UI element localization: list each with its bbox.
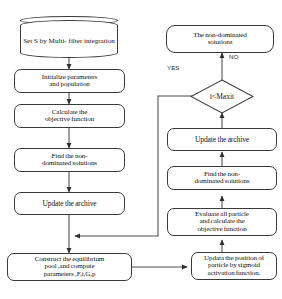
update-archive-left-line1: Update the archive [17,200,122,208]
edge-label-no: NO [229,53,238,60]
equilibrium-pool-line3: parameters ,F,t,G,p [10,271,129,278]
update-position-line3: activation function. [194,270,274,277]
update-archive-left-node: Update the archive [14,192,125,215]
update-position-node: Updata the position of particle by sigmo… [191,252,277,280]
data-source-line1: Set S by Multi- [23,37,67,45]
find-nondominated-left-node: Find the non- dominated soiutions [14,148,125,172]
find-nondominated-left-line2: dominated soiutions [17,160,122,167]
flowchart-canvas: Set S by Multi- filter integration Initi… [0,0,282,299]
find-nondominated-right-node: Find the non- dominated soiutions [167,166,277,190]
evaluate-particles-node: Evaluate all particle and calculate the … [167,208,277,236]
decision-label: t<Maxit [210,92,234,101]
data-source-node: Set S by Multi- filter integration [20,20,118,58]
evaluate-particles-line3: objective function [170,226,274,233]
find-nondominated-right-line2: dominated soiutions [170,178,274,185]
output-line2: soiutions [169,39,271,46]
equilibrium-pool-node: Construct the equilibrium pool ,and comp… [7,253,132,281]
data-source-line2: filter integration [69,37,115,45]
decision-label-wrap: t<Maxit [190,79,254,114]
edge-label-yes: YES [167,64,179,71]
calculate-objective-left-line2: objective function [17,116,122,123]
update-archive-right-node: Update the archive [167,128,277,151]
update-archive-right-line1: Update the archive [170,136,274,144]
decision-node: t<Maxit [190,79,254,114]
initialize-line2: and population [17,81,122,88]
output-node: The non-dominated soiutions [166,25,274,53]
calculate-objective-left-node: Calculate the objective function [14,104,125,128]
initialize-node: Initialize parameters and population [14,69,125,93]
